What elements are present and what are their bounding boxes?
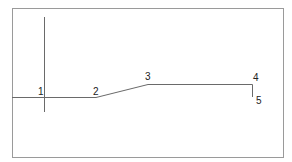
point-label-1: 1 xyxy=(38,86,44,97)
diagram-frame xyxy=(13,9,284,158)
diagram-canvas: 1 2 3 4 5 xyxy=(0,0,292,162)
profile-polyline xyxy=(12,85,253,98)
point-label-5: 5 xyxy=(256,95,262,106)
point-label-2: 2 xyxy=(93,86,99,97)
point-label-4: 4 xyxy=(253,72,259,83)
point-label-3: 3 xyxy=(145,71,151,82)
